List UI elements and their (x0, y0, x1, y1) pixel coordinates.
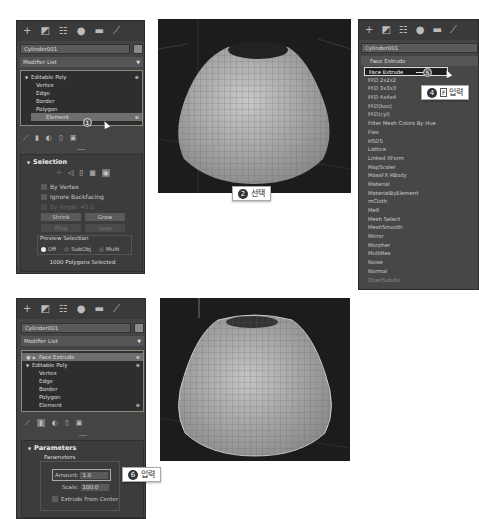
ring-button[interactable]: Ring (41, 224, 81, 232)
preview-multi-radio[interactable]: Multi (99, 246, 119, 252)
configure-sets-icon[interactable]: ▣ (76, 419, 83, 427)
pin-icon[interactable]: ⟋ (23, 134, 28, 142)
grow-button[interactable]: Grow (85, 213, 125, 221)
shrink-button[interactable]: Shrink (41, 213, 81, 221)
modify-icon[interactable]: ◩ (40, 26, 49, 36)
stack-item-editable-poly[interactable]: ▼Editable Poly⊕ (21, 73, 142, 81)
make-unique-icon[interactable]: ◐ (46, 134, 52, 142)
selection-rollout-header[interactable]: ▼Selection (21, 155, 142, 169)
make-unique-icon[interactable]: ◐ (52, 419, 58, 427)
pin-stack-icon[interactable]: ⊕ (135, 73, 139, 81)
viewport-perspective-2[interactable] (160, 298, 350, 461)
stack-item-border[interactable]: Border (22, 385, 143, 393)
create-icon[interactable]: + (23, 26, 31, 36)
eye-visibility-icon[interactable]: ◉ (26, 354, 31, 360)
display-icon[interactable]: ▬ (95, 26, 104, 36)
by-angle-value[interactable]: 45.0 (81, 203, 94, 210)
stack-item-polygon[interactable]: Polygon (21, 105, 142, 113)
modifier-option[interactable]: Morpher (361, 241, 478, 250)
modifier-option-face-extrude[interactable]: Face Extrude (364, 67, 448, 76)
pin-icon[interactable]: ⟋ (25, 419, 30, 427)
utilities-icon[interactable]: ⟋ (113, 26, 120, 36)
show-end-result-icon[interactable]: ▮ (37, 419, 45, 427)
display-icon[interactable]: ▬ (433, 25, 442, 35)
modifier-option[interactable]: Linked XForm (361, 154, 478, 163)
polygon-level-icon[interactable]: ■ (89, 169, 96, 177)
modify-icon[interactable]: ◩ (381, 25, 390, 35)
checkbox[interactable] (41, 194, 47, 200)
modifier-option[interactable]: FFD(box) (361, 102, 478, 111)
parameters-rollout-header[interactable]: ▼Parameters (22, 441, 143, 455)
remove-modifier-icon[interactable]: ▯ (59, 134, 63, 142)
modifier-option[interactable]: mCloth (361, 197, 478, 206)
modifier-option[interactable]: MapScaler (361, 163, 478, 172)
modifier-option[interactable]: MultiRes (361, 249, 478, 258)
remove-modifier-icon[interactable]: ▯ (65, 419, 69, 427)
stack-item-polygon[interactable]: Polygon (22, 393, 143, 401)
object-name-field[interactable]: Cylinder001 (20, 44, 130, 54)
utilities-icon[interactable]: ⟋ (450, 25, 457, 35)
modifier-option[interactable]: MeshSmooth (361, 223, 478, 232)
object-name-field[interactable]: Cylinder001 (361, 43, 478, 53)
motion-icon[interactable]: ● (77, 304, 86, 314)
scale-spinner[interactable]: 100.0 (81, 484, 109, 491)
modifier-option[interactable]: OpenSubdiv (361, 276, 478, 285)
motion-icon[interactable]: ● (416, 25, 425, 35)
object-color-swatch[interactable] (133, 44, 143, 54)
viewport-perspective-1[interactable] (158, 19, 351, 193)
border-level-icon[interactable]: ▯ (79, 169, 83, 177)
preview-off-radio[interactable]: Off (41, 246, 56, 252)
modifier-option[interactable]: Mesh Select (361, 215, 478, 224)
checkbox[interactable] (41, 184, 47, 190)
configure-sets-icon[interactable]: ▣ (70, 134, 77, 142)
stack-item-face-extrude[interactable]: ◉▶Face Extrude⊕ (22, 353, 143, 361)
modifier-option[interactable]: Mirror (361, 232, 478, 241)
modifier-list-dropdown[interactable]: Modifier List▼ (20, 57, 143, 67)
modifier-option[interactable]: Noise (361, 258, 478, 267)
modifier-option[interactable]: Flex (361, 128, 478, 137)
modifier-option[interactable]: Lattice (361, 145, 478, 154)
modifier-option[interactable]: FFD 2x2x2 (361, 76, 478, 85)
modifier-list-dropdown[interactable]: Face Extrude (361, 56, 478, 66)
show-end-result-icon[interactable]: ▮ (35, 134, 39, 142)
hierarchy-icon[interactable]: ☷ (399, 25, 408, 35)
modify-icon[interactable]: ◩ (40, 304, 49, 314)
checkbox[interactable] (41, 204, 47, 210)
stack-item-element[interactable]: Element⊕ (22, 401, 143, 409)
modifier-dropdown-list[interactable]: Face Extrude FFD 2x2x2 FFD 3x3x3 FFD 4x4… (361, 67, 478, 289)
modifier-option[interactable]: Material (361, 180, 478, 189)
pin-stack-icon[interactable]: ⊕ (136, 353, 140, 361)
modifier-list-dropdown[interactable]: Modifier List▼ (21, 336, 144, 346)
stack-item-vertex[interactable]: Vertex (21, 81, 142, 89)
object-name-field[interactable]: Cylinder001 (21, 323, 131, 333)
stack-item-border[interactable]: Border (21, 97, 142, 105)
utilities-icon[interactable]: ⟋ (113, 304, 120, 314)
vertex-level-icon[interactable]: ⁘ (56, 169, 62, 177)
display-icon[interactable]: ▬ (95, 304, 104, 314)
modifier-option[interactable]: Melt (361, 206, 478, 215)
modifier-option[interactable]: Normal (361, 267, 478, 276)
loop-button[interactable]: Loop (85, 224, 125, 232)
modifier-option[interactable]: MassFX RBody (361, 171, 478, 180)
create-icon[interactable]: + (365, 25, 373, 35)
by-vertex-checkbox[interactable]: By Vertex (41, 183, 79, 190)
extrude-from-center-checkbox[interactable]: Extrude From Center (52, 496, 118, 502)
element-level-icon[interactable]: ◉ (102, 169, 110, 177)
stack-item-edge[interactable]: Edge (22, 377, 143, 385)
pin-stack-icon[interactable]: ⊕ (136, 361, 140, 369)
object-color-swatch[interactable] (134, 323, 144, 333)
stack-item-vertex[interactable]: Vertex (22, 369, 143, 377)
edge-level-icon[interactable]: ◁ (68, 169, 73, 177)
stack-item-edge[interactable]: Edge (21, 89, 142, 97)
stack-item-editable-poly[interactable]: ▼Editable Poly⊕ (22, 361, 143, 369)
modifier-option[interactable]: Filter Mesh Colors By Hue (361, 119, 478, 128)
checkbox[interactable] (52, 496, 58, 502)
hierarchy-icon[interactable]: ☷ (59, 304, 68, 314)
modifier-option[interactable]: MaterialByElement (361, 189, 478, 198)
hierarchy-icon[interactable]: ☷ (59, 26, 68, 36)
create-icon[interactable]: + (23, 304, 31, 314)
motion-icon[interactable]: ● (77, 26, 86, 36)
modifier-option[interactable]: FFD(cyl) (361, 110, 478, 119)
preview-subobj-radio[interactable]: SubObj (64, 246, 91, 252)
modifier-option[interactable]: HSDS (361, 137, 478, 146)
